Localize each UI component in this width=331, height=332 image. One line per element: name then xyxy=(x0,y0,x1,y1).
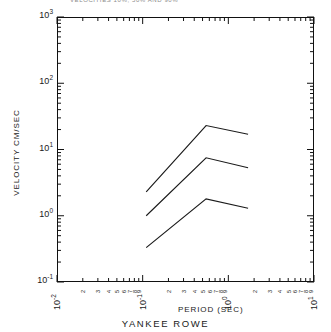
x-minor-tick-label: 9 xyxy=(223,290,229,293)
x-minor-tick-label: 4 xyxy=(107,290,113,293)
x-minor-tick-label: 3 xyxy=(96,290,102,293)
x-minor-tick-label: 4 xyxy=(278,290,284,293)
x-minor-tick-label: 3 xyxy=(268,290,274,293)
figure-caption: YANKEE ROWE xyxy=(0,318,331,329)
y-axis-title: VELOCITY CM/SEC xyxy=(12,93,21,213)
x-axis-title: PERIOD (SEC) xyxy=(178,305,243,314)
y-decade-label: 10-1 xyxy=(37,276,53,285)
figure-title-fragment: VELOCITIES 10%, 50% AND 90% xyxy=(70,0,270,5)
x-minor-tick-label: 2 xyxy=(253,290,259,293)
x-minor-tick-label: 2 xyxy=(167,290,173,293)
figure-canvas: VELOCITIES 10%, 50% AND 90% 103102101100… xyxy=(0,0,331,332)
x-minor-tick-label: 3 xyxy=(182,290,188,293)
x-decade-label: 10-2 xyxy=(53,294,62,310)
y-axis-decade-labels: 10310210110010-1 xyxy=(0,0,53,332)
x-decade-label: 101 xyxy=(310,296,319,310)
plot-frame xyxy=(57,17,314,282)
y-decade-label: 101 xyxy=(39,144,53,153)
x-minor-tick-label: 9 xyxy=(137,290,143,293)
x-minor-tick-label: 4 xyxy=(193,290,199,293)
x-minor-tick-label: 9 xyxy=(309,290,315,293)
y-decade-label: 100 xyxy=(39,210,53,219)
y-decade-label: 102 xyxy=(39,77,53,86)
x-decade-label: 10-1 xyxy=(139,294,148,310)
x-minor-tick-label: 2 xyxy=(81,290,87,293)
y-decade-label: 103 xyxy=(39,11,53,20)
x-minor-tick-label: 5 xyxy=(201,290,207,293)
